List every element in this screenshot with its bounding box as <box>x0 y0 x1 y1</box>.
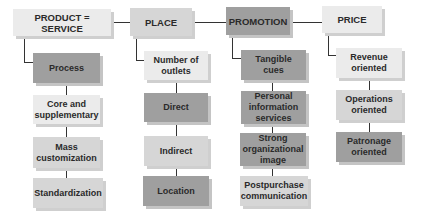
item-standardization: Standardization <box>33 178 103 208</box>
connector-product-elbow-h <box>24 62 33 63</box>
item-number-of-outlets: Number of outlets <box>144 51 208 80</box>
connector-revenue-operations <box>369 78 370 90</box>
connector-promotion-elbow-v <box>232 35 233 58</box>
connector-personal-strong <box>272 124 273 133</box>
item-tangible-cues: Tangible cues <box>241 50 306 80</box>
connector-core-mass <box>66 124 67 137</box>
connector-outlets-direct <box>176 80 177 93</box>
item-strong-organizational-image: Strong organizational image <box>240 133 306 166</box>
connector-indirect-location <box>176 166 177 176</box>
connector-process-core <box>66 83 67 95</box>
item-mass-customization: Mass customization <box>33 137 100 168</box>
connector-product-place <box>111 22 130 23</box>
item-process: Process <box>33 53 100 83</box>
header-price: PRICE <box>322 6 382 33</box>
header-promotion: PROMOTION <box>226 7 290 35</box>
item-revenue-oriented: Revenue oriented <box>336 48 402 78</box>
item-patronage-oriented: Patronage oriented <box>336 132 402 162</box>
connector-product-elbow-v <box>24 36 25 62</box>
item-postpurchase-communication: Postpurchase communication <box>240 176 308 206</box>
connector-tangible-personal <box>272 80 273 91</box>
connector-price-elbow-h <box>328 55 336 56</box>
header-place: PLACE <box>130 8 192 36</box>
connector-strong-postpurchase <box>272 166 273 176</box>
connector-direct-indirect <box>176 122 177 136</box>
connector-place-elbow-v <box>136 36 137 60</box>
connector-mass-standardization <box>66 168 67 178</box>
item-indirect: Indirect <box>144 136 208 166</box>
connector-operations-patronage <box>369 120 370 132</box>
connector-promotion-elbow-h <box>232 58 241 59</box>
connector-place-elbow-h <box>136 60 144 61</box>
connector-promotion-price <box>290 22 322 23</box>
connector-price-elbow-v <box>328 33 329 55</box>
item-operations-oriented: Operations oriented <box>336 90 402 120</box>
header-product-service: PRODUCT = SERVICE <box>13 9 111 36</box>
item-location: Location <box>143 176 209 206</box>
item-direct: Direct <box>144 93 208 122</box>
item-personal-information-services: Personal information services <box>241 91 306 124</box>
item-core-and-supplementary: Core and supplementary <box>33 95 100 124</box>
connector-place-promotion <box>192 22 226 23</box>
